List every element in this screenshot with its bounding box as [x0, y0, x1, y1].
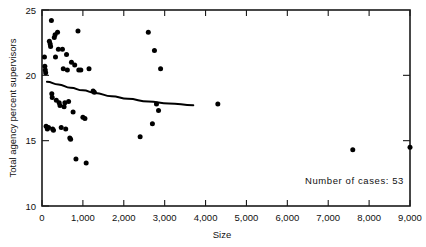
- x-tick-label: 7,000: [316, 212, 340, 223]
- data-point: [215, 102, 220, 107]
- data-point: [138, 134, 143, 139]
- data-point: [48, 44, 53, 49]
- data-point: [150, 121, 155, 126]
- data-point: [51, 128, 56, 133]
- data-point: [87, 66, 92, 71]
- x-tick-label: 1,000: [71, 212, 95, 223]
- data-point: [156, 108, 161, 113]
- y-tick-label: 10: [25, 201, 36, 212]
- y-axis-title: Total agency percent supervisors: [7, 38, 18, 177]
- data-point: [66, 99, 71, 104]
- data-point: [158, 66, 163, 71]
- number-of-cases-annotation: Number of cases: 53: [305, 175, 404, 186]
- data-point: [152, 48, 157, 53]
- x-tick-label: 0: [39, 212, 44, 223]
- y-tick-label: 25: [25, 5, 36, 16]
- x-tick-label: 9,000: [398, 212, 422, 223]
- x-tick-label: 6,000: [275, 212, 299, 223]
- y-tick-label: 20: [25, 70, 36, 81]
- chart-canvas: 01,0002,0003,0004,0005,0006,0007,0008,00…: [0, 0, 426, 247]
- data-point: [146, 30, 151, 35]
- x-tick-label: 5,000: [235, 212, 259, 223]
- data-point: [350, 147, 355, 152]
- data-point: [65, 68, 70, 73]
- data-point: [73, 156, 78, 161]
- data-point: [64, 52, 69, 57]
- data-point: [82, 116, 87, 121]
- data-points-layer: [42, 18, 413, 165]
- data-point: [55, 30, 60, 35]
- data-point: [60, 47, 65, 52]
- data-point: [75, 28, 80, 33]
- x-tick-label: 2,000: [112, 212, 136, 223]
- data-point: [408, 145, 413, 150]
- x-tick-label: 4,000: [194, 212, 218, 223]
- x-axis-tick-labels: 01,0002,0003,0004,0005,0006,0007,0008,00…: [39, 212, 422, 223]
- data-point: [68, 137, 73, 142]
- data-point: [49, 18, 54, 23]
- y-tick-label: 15: [25, 135, 36, 146]
- data-point: [72, 62, 77, 67]
- x-tick-label: 8,000: [357, 212, 381, 223]
- data-point: [53, 55, 58, 60]
- data-point: [84, 160, 89, 165]
- data-point: [71, 109, 76, 114]
- y-axis-tick-labels: 10152025: [25, 5, 36, 212]
- x-axis-title: Size: [213, 229, 231, 240]
- data-point: [42, 55, 47, 60]
- x-tick-label: 3,000: [153, 212, 177, 223]
- data-point: [78, 68, 83, 73]
- data-point: [63, 126, 68, 131]
- data-point: [43, 70, 48, 75]
- scatter-plot-figure: 01,0002,0003,0004,0005,0006,0007,0008,00…: [0, 0, 426, 247]
- data-point: [59, 125, 64, 130]
